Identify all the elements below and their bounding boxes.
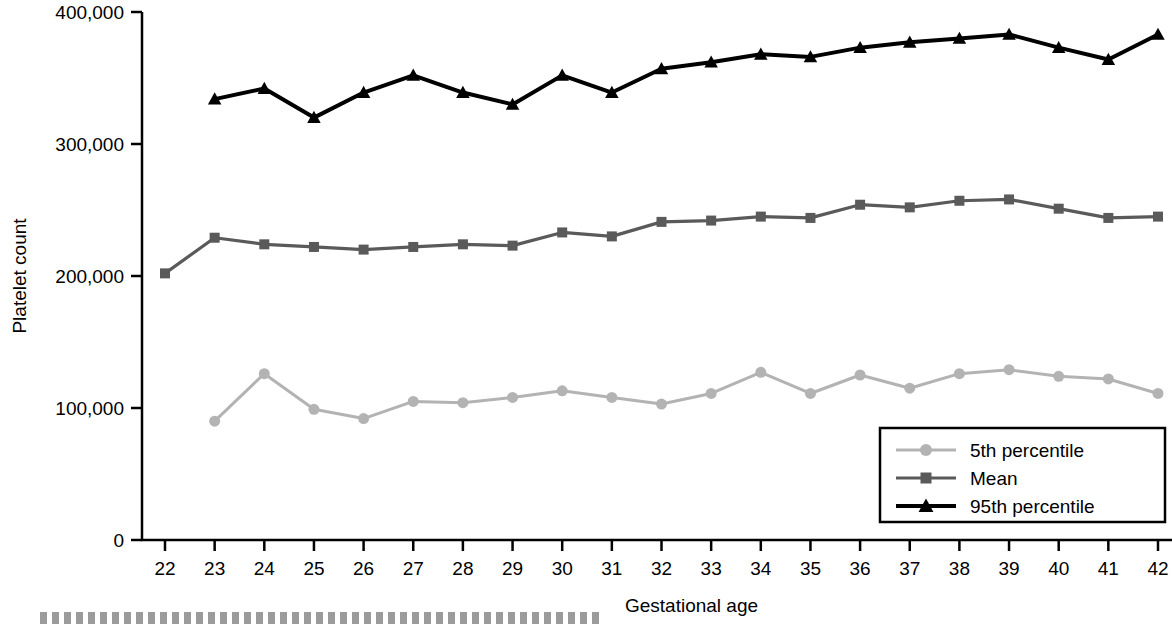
data-point-circle	[1103, 373, 1114, 384]
series-line	[215, 370, 1158, 421]
y-axis-title: Platelet count	[9, 218, 30, 334]
x-tick-label: 25	[303, 558, 324, 579]
data-point-square	[954, 196, 964, 206]
x-tick-label: 31	[601, 558, 622, 579]
data-point-circle	[805, 388, 816, 399]
x-tick-label: 30	[552, 558, 573, 579]
series-line	[215, 34, 1158, 117]
data-point-square	[458, 239, 468, 249]
data-point-square	[508, 241, 518, 251]
x-tick-label: 40	[1048, 558, 1069, 579]
legend-label-1: 5th percentile	[970, 440, 1084, 461]
series-line	[165, 199, 1158, 273]
y-tick-label: 200,000	[55, 266, 124, 287]
x-tick-label: 29	[502, 558, 523, 579]
data-point-square	[706, 216, 716, 226]
data-point-square	[1153, 212, 1163, 222]
series-5th-percentile	[209, 364, 1163, 426]
series-95th-percentile	[208, 28, 1165, 123]
x-tick-label: 23	[204, 558, 225, 579]
data-point-square	[607, 231, 617, 241]
data-point-square	[1054, 204, 1064, 214]
legend: 5th percentileMean95th percentile	[880, 428, 1165, 522]
data-point-square	[309, 242, 319, 252]
data-point-square	[1004, 194, 1014, 204]
data-point-circle	[408, 396, 419, 407]
x-tick-label: 33	[701, 558, 722, 579]
data-point-circle	[557, 385, 568, 396]
x-tick-label: 34	[750, 558, 772, 579]
data-point-circle	[507, 392, 518, 403]
data-point-square	[921, 473, 932, 484]
data-point-circle	[755, 367, 766, 378]
x-tick-label: 28	[452, 558, 473, 579]
data-point-square	[408, 242, 418, 252]
data-point-square	[756, 212, 766, 222]
data-point-square	[259, 239, 269, 249]
x-tick-label: 41	[1098, 558, 1119, 579]
x-tick-label: 26	[353, 558, 374, 579]
x-tick-label: 38	[949, 558, 970, 579]
data-point-circle	[1153, 388, 1164, 399]
data-point-circle	[1004, 364, 1015, 375]
data-point-square	[905, 202, 915, 212]
x-tick-label: 39	[998, 558, 1019, 579]
data-point-circle	[656, 399, 667, 410]
platelet-count-chart-figure: 0100,000200,000300,000400,00022232425262…	[0, 0, 1172, 631]
x-tick-label: 36	[850, 558, 871, 579]
x-tick-label: 32	[651, 558, 672, 579]
y-tick-label: 100,000	[55, 398, 124, 419]
x-tick-label: 27	[403, 558, 424, 579]
data-point-circle	[259, 368, 270, 379]
x-tick-label: 24	[254, 558, 276, 579]
data-point-square	[210, 233, 220, 243]
data-point-triangle	[1151, 28, 1165, 40]
data-point-square	[855, 200, 865, 210]
data-point-circle	[954, 368, 965, 379]
data-point-square	[1103, 213, 1113, 223]
data-point-circle	[209, 416, 220, 427]
data-point-square	[160, 268, 170, 278]
data-point-circle	[308, 404, 319, 415]
data-point-circle	[606, 392, 617, 403]
data-point-square	[359, 245, 369, 255]
data-point-circle	[358, 413, 369, 424]
x-tick-label: 22	[154, 558, 175, 579]
y-tick-label: 400,000	[55, 2, 124, 23]
data-point-square	[805, 213, 815, 223]
legend-label-2: Mean	[970, 468, 1018, 489]
y-tick-label: 0	[113, 530, 124, 551]
data-point-square	[657, 217, 667, 227]
x-tick-label: 37	[899, 558, 920, 579]
page-footer-artifact	[40, 612, 600, 624]
data-point-circle	[920, 444, 932, 456]
data-point-circle	[706, 388, 717, 399]
x-tick-label: 35	[800, 558, 821, 579]
legend-label-3: 95th percentile	[970, 496, 1095, 517]
data-point-circle	[1053, 371, 1064, 382]
y-axis-ticks: 0100,000200,000300,000400,000	[55, 2, 142, 551]
y-tick-label: 300,000	[55, 134, 124, 155]
data-point-circle	[457, 397, 468, 408]
chart-canvas: 0100,000200,000300,000400,00022232425262…	[0, 0, 1172, 631]
x-axis-title: Gestational age	[625, 595, 758, 616]
data-point-square	[557, 227, 567, 237]
x-tick-label: 42	[1147, 558, 1168, 579]
series-mean	[160, 194, 1163, 278]
data-point-circle	[904, 383, 915, 394]
data-point-triangle	[407, 69, 421, 81]
data-point-circle	[855, 370, 866, 381]
data-point-triangle	[555, 69, 569, 81]
x-axis-ticks: 2223242526272829303132333435363738394041…	[154, 540, 1168, 579]
